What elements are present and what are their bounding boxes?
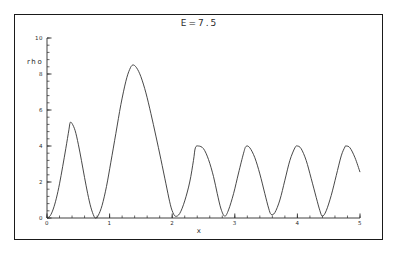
x-tick-label: 2 bbox=[166, 220, 178, 226]
y-tick-label: 2 bbox=[29, 179, 43, 185]
data-curve bbox=[47, 65, 360, 218]
x-tick-label: 0 bbox=[41, 220, 53, 226]
y-tick-label: 10 bbox=[29, 35, 43, 41]
curve-group bbox=[47, 65, 360, 218]
chart-root: E=7.5 rho x 0246810 012345 bbox=[0, 0, 399, 255]
y-tick-label: 4 bbox=[29, 143, 43, 149]
x-tick-label: 1 bbox=[104, 220, 116, 226]
axes-group bbox=[47, 38, 360, 218]
plot-canvas bbox=[0, 0, 399, 255]
x-tick-label: 3 bbox=[229, 220, 241, 226]
y-tick-label: 6 bbox=[29, 107, 43, 113]
x-tick-label: 4 bbox=[291, 220, 303, 226]
x-tick-label: 5 bbox=[354, 220, 366, 226]
y-tick-label: 8 bbox=[29, 71, 43, 77]
